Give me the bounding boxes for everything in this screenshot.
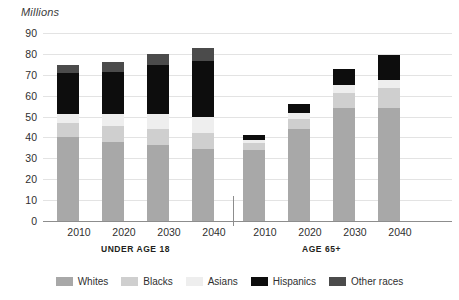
bar-segment-asians <box>192 117 214 134</box>
legend-label: Other races <box>351 276 403 287</box>
x-axis-tick-label: 2030 <box>333 226 377 238</box>
x-axis-tick-label: 2040 <box>378 226 422 238</box>
x-axis-tick-label: 2030 <box>147 226 191 238</box>
y-axis-tick-label: 40 <box>25 131 37 143</box>
y-axis-tick-label: 90 <box>25 27 37 39</box>
bar-segment-whites <box>102 142 124 221</box>
legend-swatch-icon <box>56 277 73 286</box>
y-axis-tick-label: 20 <box>25 173 37 185</box>
y-axis-tick-label: 80 <box>25 48 37 60</box>
bar-segment-hispanics <box>333 69 355 86</box>
bar-under-age-18-2010[interactable] <box>57 65 79 221</box>
legend-item-asians[interactable]: Asians <box>186 276 238 287</box>
bar-age-65--2030[interactable] <box>333 69 355 221</box>
y-axis-tick-label: 60 <box>25 90 37 102</box>
bar-segment-whites <box>243 150 265 221</box>
plot-area: 0102030405060708090 <box>43 33 452 221</box>
bar-segment-blacks <box>102 126 124 142</box>
chart-container: Millions 0102030405060708090 20102020203… <box>0 0 459 300</box>
bar-age-65--2040[interactable] <box>378 55 400 221</box>
bar-segment-blacks <box>192 133 214 149</box>
legend-label: Hispanics <box>273 276 316 287</box>
bar-segment-hispanics <box>147 65 169 114</box>
bar-segment-asians <box>333 85 355 92</box>
bar-segment-asians <box>378 80 400 88</box>
chart-legend: WhitesBlacksAsiansHispanicsOther races <box>0 276 459 287</box>
bar-segment-whites <box>192 149 214 221</box>
bar-segment-asians <box>243 140 265 143</box>
bar-segment-asians <box>102 114 124 125</box>
group-divider <box>233 196 234 226</box>
legend-swatch-icon <box>121 277 138 286</box>
bar-segment-whites <box>57 137 79 221</box>
y-axis-tick-label: 70 <box>25 69 37 81</box>
legend-item-other-races[interactable]: Other races <box>329 276 403 287</box>
group-label: AGE 65+ <box>302 244 341 254</box>
bar-segment-blacks <box>378 88 400 108</box>
bar-segment-hispanics <box>288 104 310 113</box>
bar-segment-other-races <box>57 65 79 72</box>
x-axis-tick-label: 2020 <box>288 226 332 238</box>
y-axis-title: Millions <box>21 6 59 18</box>
legend-label: Asians <box>208 276 238 287</box>
bar-under-age-18-2040[interactable] <box>192 48 214 221</box>
group-label: UNDER AGE 18 <box>101 244 170 254</box>
legend-item-blacks[interactable]: Blacks <box>121 276 172 287</box>
bar-segment-blacks <box>147 129 169 145</box>
legend-item-whites[interactable]: Whites <box>56 276 109 287</box>
bar-segment-whites <box>288 129 310 221</box>
bar-segment-hispanics <box>378 55 400 80</box>
legend-swatch-icon <box>186 277 203 286</box>
bar-segment-asians <box>147 114 169 129</box>
bar-segment-other-races <box>192 48 214 62</box>
bar-segment-blacks <box>333 93 355 109</box>
legend-swatch-icon <box>251 277 268 286</box>
x-axis-tick-label: 2010 <box>57 226 101 238</box>
legend-label: Blacks <box>143 276 172 287</box>
y-axis-tick-label: 50 <box>25 111 37 123</box>
y-axis-tick-label: 0 <box>31 215 37 227</box>
bar-segment-other-races <box>147 54 169 65</box>
legend-swatch-icon <box>329 277 346 286</box>
bar-segment-whites <box>147 145 169 221</box>
legend-item-hispanics[interactable]: Hispanics <box>251 276 316 287</box>
x-axis-tick-label: 2040 <box>192 226 236 238</box>
bar-segment-hispanics <box>243 135 265 139</box>
bar-segment-whites <box>333 108 355 221</box>
bar-under-age-18-2020[interactable] <box>102 62 124 221</box>
legend-label: Whites <box>78 276 109 287</box>
y-axis-tick-label: 30 <box>25 152 37 164</box>
x-axis-baseline: 0 <box>43 221 452 222</box>
bar-segment-whites <box>378 108 400 221</box>
bar-segment-blacks <box>288 119 310 129</box>
bar-segment-asians <box>57 114 79 122</box>
x-axis-tick-label: 2020 <box>102 226 146 238</box>
bar-segment-hispanics <box>192 61 214 116</box>
bar-segment-asians <box>288 113 310 118</box>
y-axis-tick-label: 10 <box>25 194 37 206</box>
bar-segment-hispanics <box>102 72 124 115</box>
bar-segment-blacks <box>57 123 79 138</box>
x-axis-tick-label: 2010 <box>243 226 287 238</box>
bar-age-65--2020[interactable] <box>288 104 310 221</box>
bar-segment-other-races <box>102 62 124 71</box>
gridline: 90 <box>43 33 452 34</box>
bar-under-age-18-2030[interactable] <box>147 54 169 221</box>
bar-segment-hispanics <box>57 73 79 115</box>
bar-age-65--2010[interactable] <box>243 135 265 221</box>
bar-segment-blacks <box>243 143 265 150</box>
